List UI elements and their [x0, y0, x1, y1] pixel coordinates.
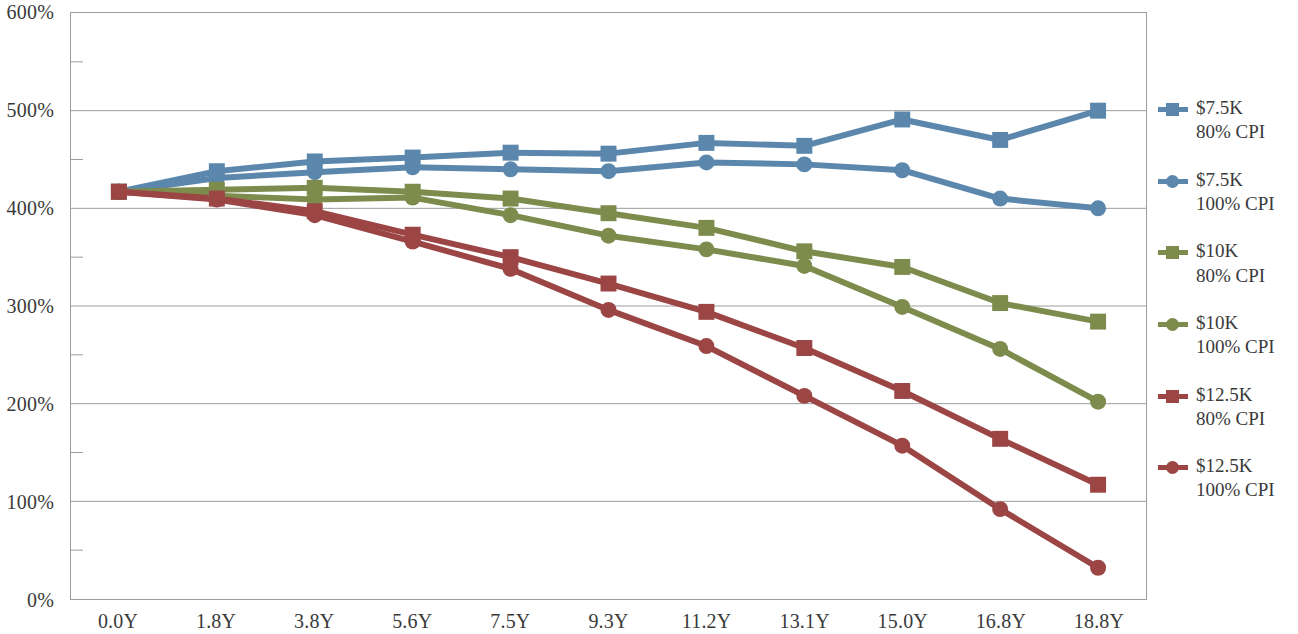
legend-circle-marker-icon	[1166, 318, 1179, 331]
legend-swatch-icon	[1158, 457, 1188, 477]
legend-item[interactable]: $10K 100% CPI	[1158, 311, 1298, 360]
data-point-marker	[405, 159, 421, 175]
legend-item[interactable]: $12.5K 80% CPI	[1158, 383, 1298, 432]
data-point-marker	[601, 146, 617, 162]
data-point-marker	[209, 192, 225, 208]
data-point-marker	[796, 138, 812, 154]
legend-item[interactable]: $7.5K 100% CPI	[1158, 168, 1298, 217]
legend-circle-marker-icon	[1166, 461, 1179, 474]
legend-swatch-icon	[1158, 386, 1188, 406]
series-line	[119, 192, 1098, 402]
data-point-marker	[796, 388, 812, 404]
y-axis: 600%500%400%300%200%100%0%	[0, 0, 62, 634]
data-point-marker	[601, 205, 617, 221]
legend-label: $12.5K 80% CPI	[1196, 383, 1265, 432]
chart-root: 600%500%400%300%200%100%0% 0.0Y1.8Y3.8Y5…	[0, 0, 1298, 634]
data-point-marker	[698, 241, 714, 257]
data-point-marker	[503, 207, 519, 223]
y-tick-label: 300%	[7, 295, 62, 318]
x-tick-label: 15.0Y	[878, 610, 928, 633]
x-tick-label: 3.8Y	[294, 610, 334, 633]
data-point-marker	[894, 162, 910, 178]
x-tick-label: 1.8Y	[196, 610, 236, 633]
data-point-marker	[307, 164, 323, 180]
data-point-marker	[698, 220, 714, 236]
x-tick-label: 18.8Y	[1074, 610, 1124, 633]
data-point-marker	[992, 501, 1008, 517]
data-point-marker	[111, 184, 127, 200]
data-point-marker	[796, 258, 812, 274]
data-point-marker	[405, 190, 421, 206]
data-point-marker	[503, 145, 519, 161]
chart-legend: $7.5K 80% CPI$7.5K 100% CPI$10K 80% CPI$…	[1158, 96, 1298, 526]
legend-label: $7.5K 80% CPI	[1196, 96, 1265, 145]
data-point-marker	[1090, 314, 1106, 330]
legend-swatch-icon	[1158, 99, 1188, 119]
data-point-marker	[503, 161, 519, 177]
data-point-marker	[992, 191, 1008, 207]
legend-label: $10K 80% CPI	[1196, 239, 1265, 288]
y-tick-label: 500%	[7, 99, 62, 122]
x-tick-label: 5.6Y	[392, 610, 432, 633]
y-tick-label: 0%	[27, 589, 62, 612]
x-tick-label: 9.3Y	[588, 610, 628, 633]
legend-swatch-icon	[1158, 171, 1188, 191]
y-tick-label: 100%	[7, 491, 62, 514]
y-tick-label: 200%	[7, 393, 62, 416]
data-point-marker	[1090, 560, 1106, 576]
data-point-marker	[698, 304, 714, 320]
data-point-marker	[992, 341, 1008, 357]
legend-item[interactable]: $12.5K 100% CPI	[1158, 454, 1298, 503]
legend-label: $12.5K 100% CPI	[1196, 454, 1275, 503]
legend-item[interactable]: $10K 80% CPI	[1158, 239, 1298, 288]
data-point-marker	[698, 154, 714, 170]
data-point-marker	[405, 234, 421, 250]
legend-square-marker-icon	[1166, 103, 1179, 116]
data-point-marker	[601, 276, 617, 292]
data-point-marker	[796, 340, 812, 356]
legend-label: $10K 100% CPI	[1196, 311, 1275, 360]
legend-item[interactable]: $7.5K 80% CPI	[1158, 96, 1298, 145]
x-tick-label: 13.1Y	[779, 610, 829, 633]
plot-svg	[71, 13, 1146, 599]
data-point-marker	[894, 383, 910, 399]
data-point-marker	[894, 259, 910, 275]
data-point-marker	[894, 111, 910, 127]
y-tick-label: 400%	[7, 197, 62, 220]
data-point-marker	[601, 228, 617, 244]
legend-swatch-icon	[1158, 314, 1188, 334]
series-line	[119, 192, 1098, 568]
legend-square-marker-icon	[1166, 246, 1179, 259]
data-point-marker	[601, 302, 617, 318]
x-tick-label: 16.8Y	[976, 610, 1026, 633]
data-point-marker	[1090, 200, 1106, 216]
series-lines	[119, 111, 1098, 568]
data-point-marker	[307, 207, 323, 223]
data-point-marker	[992, 295, 1008, 311]
x-axis: 0.0Y1.8Y3.8Y5.6Y7.5Y9.3Y11.2Y13.1Y15.0Y1…	[70, 602, 1147, 634]
data-point-marker	[503, 191, 519, 207]
data-point-marker	[698, 135, 714, 151]
legend-swatch-icon	[1158, 242, 1188, 262]
data-point-marker	[992, 431, 1008, 447]
x-tick-label: 0.0Y	[98, 610, 138, 633]
data-point-marker	[601, 163, 617, 179]
data-point-marker	[503, 261, 519, 277]
plot-area	[70, 12, 1147, 600]
data-point-marker	[796, 156, 812, 172]
data-point-marker	[894, 299, 910, 315]
legend-square-marker-icon	[1166, 390, 1179, 403]
data-point-marker	[698, 338, 714, 354]
data-point-marker	[796, 243, 812, 259]
data-point-marker	[1090, 103, 1106, 119]
data-point-marker	[992, 132, 1008, 148]
data-point-marker	[894, 438, 910, 454]
x-tick-label: 11.2Y	[682, 610, 732, 633]
legend-circle-marker-icon	[1166, 175, 1179, 188]
y-tick-label: 600%	[7, 1, 62, 24]
data-point-marker	[1090, 477, 1106, 493]
data-point-marker	[1090, 394, 1106, 410]
legend-label: $7.5K 100% CPI	[1196, 168, 1275, 217]
x-tick-label: 7.5Y	[490, 610, 530, 633]
